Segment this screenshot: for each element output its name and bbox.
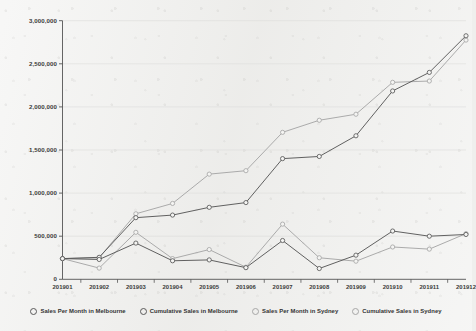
data-point-marker <box>464 232 468 236</box>
legend-item-label: Cumulative Sales in Sydney <box>362 309 441 315</box>
legend-item-label: Sales Per Month in Melbourne <box>40 309 125 315</box>
data-point-marker <box>354 259 358 263</box>
data-point-marker <box>170 259 174 263</box>
data-point-marker <box>134 230 138 234</box>
x-axis-ticks <box>81 279 448 283</box>
x-axis-tick-label: 201909 <box>346 285 366 291</box>
chart-legend: Sales Per Month in MelbourneCumulative S… <box>0 308 472 315</box>
data-point-marker <box>280 130 284 134</box>
series-line <box>63 36 467 259</box>
data-point-marker <box>60 257 64 261</box>
data-point-marker <box>391 245 395 249</box>
data-point-marker <box>280 157 284 161</box>
y-axis-tick-label: 3,000,000 <box>29 18 57 24</box>
series-line <box>63 40 467 259</box>
circle-open-marker <box>252 308 259 315</box>
data-series <box>60 34 468 271</box>
data-point-marker <box>97 257 101 261</box>
data-point-marker <box>464 38 468 42</box>
x-axis-tick-label: 201905 <box>199 285 219 291</box>
data-point-marker <box>207 258 211 262</box>
legend-item-label: Cumulative Sales in Melbourne <box>150 309 238 315</box>
data-point-marker <box>134 241 138 245</box>
x-axis-tick-label: 201907 <box>273 285 293 291</box>
circle-open-marker <box>30 308 37 315</box>
x-axis-tick-label: 201902 <box>89 285 109 291</box>
series-line <box>63 224 467 268</box>
x-axis-tick-label: 201911 <box>419 285 439 291</box>
data-point-marker <box>317 154 321 158</box>
data-point-marker <box>354 253 358 257</box>
gridlines <box>63 21 467 237</box>
y-axis-ticks <box>59 21 63 280</box>
y-axis-tick-label: 2,000,000 <box>29 104 57 110</box>
legend-item[interactable]: Cumulative Sales in Sydney <box>352 308 441 315</box>
legend-item[interactable]: Sales Per Month in Sydney <box>252 308 338 315</box>
data-point-marker <box>207 247 211 251</box>
data-point-marker <box>244 266 248 270</box>
data-point-marker <box>354 112 358 116</box>
data-point-marker <box>244 169 248 173</box>
x-axis-tick-label: 201910 <box>383 285 403 291</box>
data-point-marker <box>427 79 431 83</box>
y-axis-tick-label: 1,500,000 <box>29 147 57 153</box>
x-axis-tick-label: 201908 <box>309 285 329 291</box>
y-axis-tick-label: 1,000,000 <box>29 190 57 196</box>
data-point-marker <box>207 205 211 209</box>
y-axis-tick-label: 2,500,000 <box>29 61 57 67</box>
data-point-marker <box>280 238 284 242</box>
data-point-marker <box>427 234 431 238</box>
circle-open-marker <box>140 308 147 315</box>
data-point-marker <box>391 80 395 84</box>
data-point-marker <box>207 172 211 176</box>
data-point-marker <box>170 201 174 205</box>
x-axis-tick-label: 201912 <box>456 285 476 291</box>
circle-open-marker <box>352 308 359 315</box>
y-axis-tick-label: 0 <box>54 276 58 282</box>
legend-item[interactable]: Sales Per Month in Melbourne <box>30 308 125 315</box>
data-point-marker <box>97 266 101 270</box>
data-point-marker <box>317 256 321 260</box>
legend-item[interactable]: Cumulative Sales in Melbourne <box>140 308 238 315</box>
x-axis-tick-label: 201906 <box>236 285 256 291</box>
y-axis-tick-label: 500,000 <box>34 233 57 239</box>
data-point-marker <box>280 222 284 226</box>
data-point-marker <box>427 70 431 74</box>
series-line <box>63 231 467 269</box>
data-point-marker <box>354 134 358 138</box>
legend-item-label: Sales Per Month in Sydney <box>262 309 338 315</box>
x-axis-tick-label: 201904 <box>163 285 183 291</box>
data-point-marker <box>170 213 174 217</box>
data-point-marker <box>317 118 321 122</box>
x-axis-tick-label: 201903 <box>126 285 146 291</box>
data-point-marker <box>317 266 321 270</box>
data-point-marker <box>134 216 138 220</box>
x-axis-tick-label: 201901 <box>53 285 73 291</box>
data-point-marker <box>391 89 395 93</box>
data-point-marker <box>244 200 248 204</box>
data-point-marker <box>464 34 468 38</box>
data-point-marker <box>391 229 395 233</box>
data-point-marker <box>427 247 431 251</box>
